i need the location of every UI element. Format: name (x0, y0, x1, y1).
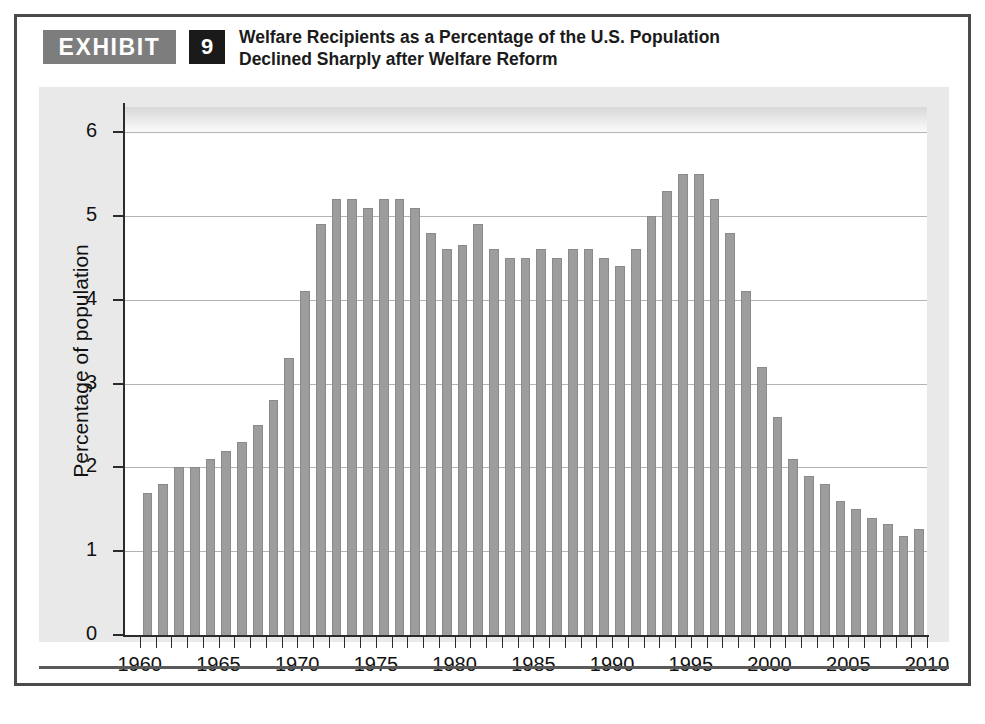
x-tick-mark-2001 (785, 637, 786, 648)
x-tick-mark-1975 (376, 637, 377, 648)
bar-2006 (867, 518, 877, 635)
y-axis-title: Percentage of population (69, 151, 93, 571)
x-tick-mark-1990 (612, 637, 613, 648)
x-tick-mark-1967 (250, 637, 251, 648)
exhibit-number-badge: 9 (189, 30, 225, 64)
x-tick-mark-1961 (156, 637, 157, 648)
x-tick-mark-1960 (140, 637, 141, 648)
x-tick-label-2000: 2000 (735, 653, 805, 676)
x-tick-mark-2008 (896, 637, 897, 648)
bar-1967 (253, 425, 263, 635)
y-tick-mark-2 (113, 466, 124, 468)
exhibit-header: EXHIBIT 9 Welfare Recipients as a Percen… (17, 17, 968, 79)
x-tick-label-1970: 1970 (262, 653, 332, 676)
plot-top-shading (124, 107, 927, 135)
x-tick-label-2005: 2005 (813, 653, 883, 676)
y-tick-mark-3 (113, 383, 124, 385)
bar-1979 (442, 249, 452, 635)
x-tick-mark-1984 (518, 637, 519, 648)
x-tick-mark-2010 (927, 637, 928, 648)
x-tick-label-2010: 2010 (892, 653, 962, 676)
x-tick-mark-1988 (581, 637, 582, 648)
x-tick-label-1960: 1960 (105, 653, 175, 676)
bar-1977 (410, 208, 420, 635)
x-tick-mark-1973 (344, 637, 345, 648)
exhibit-title-line-1: Welfare Recipients as a Percentage of th… (239, 26, 939, 48)
x-tick-mark-2006 (864, 637, 865, 648)
x-tick-mark-1976 (392, 637, 393, 648)
x-tick-mark-1983 (502, 637, 503, 648)
x-tick-mark-1996 (707, 637, 708, 648)
x-tick-mark-1968 (266, 637, 267, 648)
gridline-6 (124, 132, 927, 133)
x-tick-mark-1986 (549, 637, 550, 648)
exhibit-title-line-2: Declined Sharply after Welfare Reform (239, 48, 939, 70)
y-tick-mark-0 (113, 634, 124, 636)
bar-2004 (836, 501, 846, 635)
y-tick-mark-5 (113, 215, 124, 217)
x-tick-mark-1970 (297, 637, 298, 648)
y-tick-label-0: 0 (69, 622, 97, 645)
x-tick-label-1965: 1965 (184, 653, 254, 676)
bar-1969 (284, 358, 294, 635)
x-tick-mark-1966 (234, 637, 235, 648)
bar-1981 (473, 224, 483, 635)
x-tick-mark-2004 (833, 637, 834, 648)
x-tick-label-1995: 1995 (656, 653, 726, 676)
x-tick-mark-1994 (675, 637, 676, 648)
bar-2000 (773, 417, 783, 635)
bar-1976 (395, 199, 405, 635)
x-tick-mark-1980 (455, 637, 456, 648)
bar-1964 (206, 459, 216, 635)
exhibit-figure: EXHIBIT 9 Welfare Recipients as a Percen… (14, 14, 971, 686)
chart-panel: 0123456 19601965197019751980198519901995… (39, 87, 949, 642)
y-tick-mark-4 (113, 299, 124, 301)
x-axis-line (123, 635, 929, 637)
exhibit-title: Welfare Recipients as a Percentage of th… (239, 26, 939, 70)
x-tick-mark-1978 (423, 637, 424, 648)
bar-1980 (458, 245, 468, 635)
bar-1997 (725, 233, 735, 635)
gridline-5 (124, 216, 927, 217)
bar-1996 (710, 199, 720, 635)
bar-1993 (662, 191, 672, 635)
x-tick-mark-2007 (880, 637, 881, 648)
x-tick-mark-1971 (313, 637, 314, 648)
y-tick-mark-1 (113, 550, 124, 552)
bar-1982 (489, 249, 499, 635)
x-tick-mark-2003 (817, 637, 818, 648)
x-tick-mark-1972 (329, 637, 330, 648)
bar-2009 (914, 529, 924, 635)
y-tick-label-6: 6 (69, 119, 97, 142)
bar-1987 (568, 249, 578, 635)
x-tick-mark-2009 (911, 637, 912, 648)
x-tick-mark-1991 (628, 637, 629, 648)
bar-1974 (363, 208, 373, 635)
bar-1963 (190, 467, 200, 635)
bar-1960 (143, 493, 153, 635)
x-tick-mark-1974 (360, 637, 361, 648)
x-tick-mark-1999 (754, 637, 755, 648)
footer-rule (39, 666, 949, 669)
bar-1968 (269, 400, 279, 635)
bar-1994 (678, 174, 688, 635)
bar-2001 (788, 459, 798, 635)
bar-2008 (899, 536, 909, 635)
bar-1965 (221, 451, 231, 635)
bar-1966 (237, 442, 247, 635)
x-tick-mark-1965 (219, 637, 220, 648)
x-tick-mark-1997 (722, 637, 723, 648)
exhibit-tag-label: EXHIBIT (43, 30, 176, 64)
bar-1983 (505, 258, 515, 635)
y-tick-mark-6 (113, 131, 124, 133)
x-tick-mark-1964 (203, 637, 204, 648)
bar-1990 (615, 266, 625, 635)
x-tick-mark-1969 (282, 637, 283, 648)
bar-1962 (174, 467, 184, 635)
x-tick-mark-1977 (407, 637, 408, 648)
bar-1975 (379, 199, 389, 635)
x-tick-mark-1998 (738, 637, 739, 648)
x-tick-mark-1995 (691, 637, 692, 648)
bar-1970 (300, 291, 310, 635)
bar-1998 (741, 291, 751, 635)
